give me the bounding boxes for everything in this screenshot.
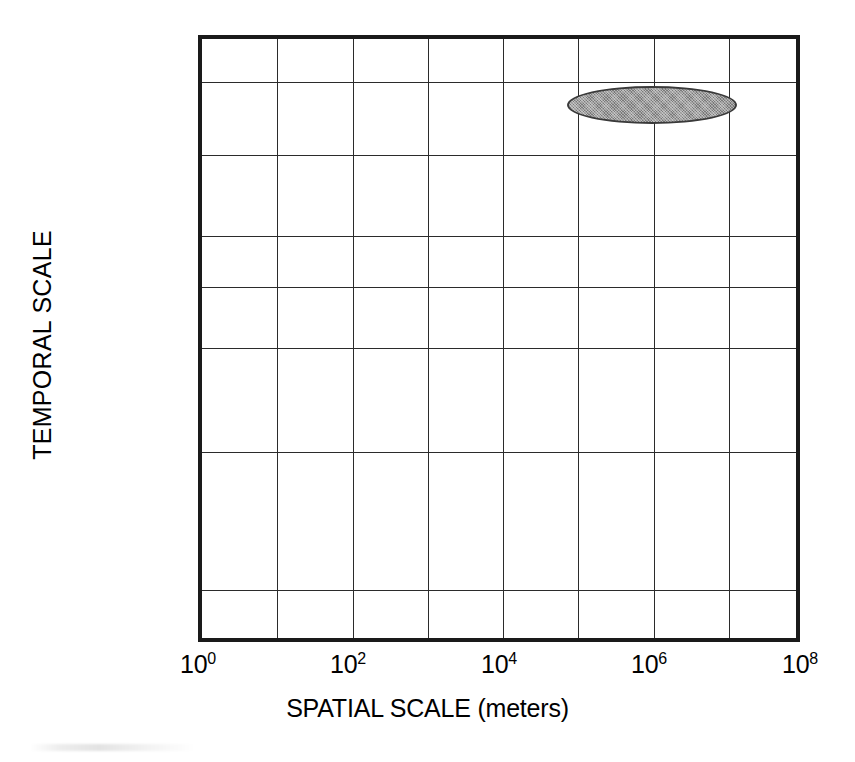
x-axis-title: SPATIAL SCALE (meters) [0, 694, 855, 723]
x-tick-exponent: 6 [658, 650, 667, 667]
gridline-vertical-1e1 [277, 39, 278, 638]
gridline-vertical-1e4 [503, 39, 504, 638]
x-tick-label-1e0: 100 [180, 650, 216, 678]
gridline-horizontal-week [202, 287, 796, 288]
scale-region-ellipse [567, 86, 737, 124]
x-tick-mantissa: 10 [782, 650, 809, 678]
gridline-horizontal-month [202, 236, 796, 237]
gridline-horizontal-day [202, 348, 796, 349]
gridline-vertical-1e5 [578, 39, 579, 638]
x-tick-mantissa: 10 [481, 650, 508, 678]
x-tick-label-1e4: 104 [481, 650, 517, 678]
x-tick-exponent: 4 [508, 650, 517, 667]
gridline-vertical-1e7 [729, 39, 730, 638]
x-tick-exponent: 0 [207, 650, 216, 667]
x-tick-mantissa: 10 [330, 650, 357, 678]
x-tick-label-1e2: 102 [330, 650, 366, 678]
x-tick-label-1e8: 108 [782, 650, 818, 678]
x-tick-label-1e6: 106 [631, 650, 667, 678]
gridline-horizontal-decade [202, 82, 796, 83]
scan-artifact [30, 744, 195, 751]
y-axis-title: TEMPORAL SCALE [28, 230, 57, 460]
x-tick-exponent: 8 [809, 650, 818, 667]
gridline-horizontal-hour [202, 452, 796, 453]
gridline-vertical-1e6 [654, 39, 655, 638]
gridline-horizontal-year [202, 155, 796, 156]
gridline-vertical-1e3 [428, 39, 429, 638]
plot-area [198, 35, 800, 642]
x-tick-exponent: 2 [357, 650, 366, 667]
x-tick-mantissa: 10 [631, 650, 658, 678]
gridline-horizontal-minute [202, 590, 796, 591]
figure-scale-diagram: TEMPORAL SCALE Decade Year Month Week Da… [0, 0, 855, 762]
x-tick-mantissa: 10 [180, 650, 207, 678]
gridline-vertical-1e2 [353, 39, 354, 638]
